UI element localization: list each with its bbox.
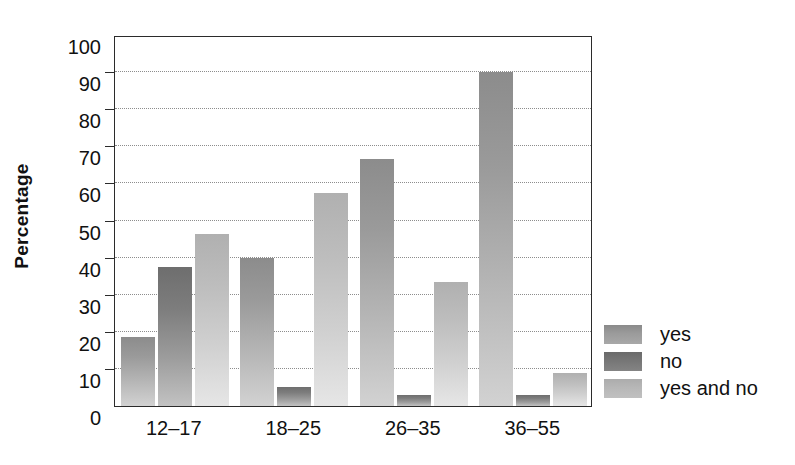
y-tick-mark-40 <box>105 258 114 259</box>
y-axis: 0102030405060708090100 <box>0 36 114 407</box>
bar-12–17-no <box>158 267 192 406</box>
bar-18–25-no <box>277 387 311 406</box>
x-tick-label-36–55: 36–55 <box>504 417 560 440</box>
y-tick-mark-30 <box>105 295 114 296</box>
y-tick-mark-10 <box>105 369 114 370</box>
y-tick-mark-70 <box>105 146 114 147</box>
bar-36–55-no <box>516 395 550 406</box>
x-tick-label-26–35: 26–35 <box>385 417 441 440</box>
x-tick-label-12–17: 12–17 <box>146 417 202 440</box>
bar-18–25-yes-and-no <box>314 193 348 406</box>
bar-36–55-yes <box>479 72 513 406</box>
chart-legend: yesnoyes and no <box>604 321 789 402</box>
bar-26–35-yes <box>360 159 394 406</box>
y-tick-mark-50 <box>105 221 114 222</box>
plot-area <box>114 36 592 407</box>
legend-swatch-yes-and-no <box>604 379 642 398</box>
legend-swatch-no <box>604 352 642 371</box>
legend-item-yes: yes <box>604 321 789 348</box>
y-tick-mark-20 <box>105 332 114 333</box>
legend-swatch-yes <box>604 325 642 344</box>
bar-26–35-yes-and-no <box>434 282 468 406</box>
bar-12–17-yes-and-no <box>195 234 229 407</box>
y-tick-mark-60 <box>105 183 114 184</box>
bar-chart-figure: Percentage 0102030405060708090100 12–171… <box>0 0 795 465</box>
bar-26–35-no <box>397 395 431 406</box>
x-tick-label-18–25: 18–25 <box>265 417 321 440</box>
bar-12–17-yes <box>121 337 155 406</box>
legend-label-yes-and-no: yes and no <box>660 377 758 400</box>
bar-18–25-yes <box>240 258 274 406</box>
legend-label-no: no <box>660 350 682 373</box>
bars-layer <box>115 37 591 406</box>
legend-item-yes-and-no: yes and no <box>604 375 789 402</box>
y-tick-mark-90 <box>105 72 114 73</box>
legend-label-yes: yes <box>660 323 691 346</box>
y-tick-mark-80 <box>105 109 114 110</box>
bar-36–55-yes-and-no <box>553 373 587 406</box>
x-axis: 12–1718–2526–3536–55 <box>114 407 592 455</box>
legend-item-no: no <box>604 348 789 375</box>
